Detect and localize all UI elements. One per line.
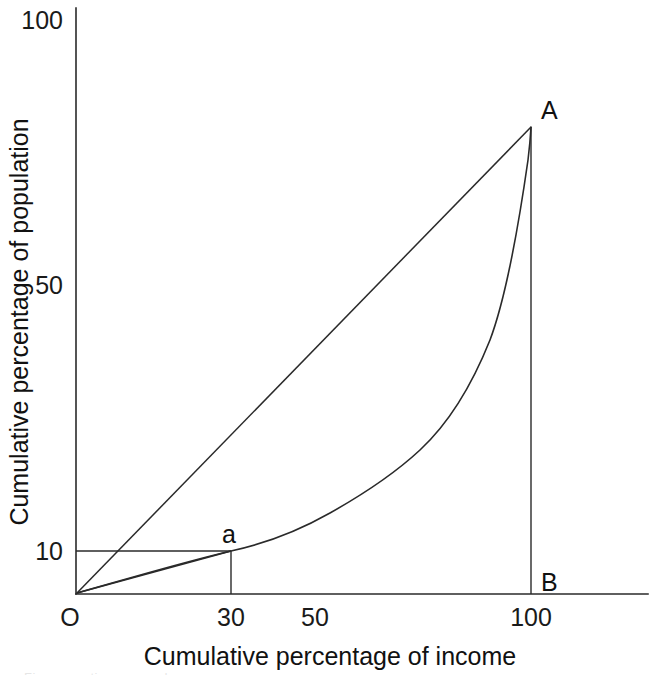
cropped-caption-artifact: Figure caption cropped: [24, 671, 324, 675]
y-tick-label-50: 50: [35, 271, 63, 299]
chart-canvas: 100 50 10 30 50 100 O A B a Cumulative p…: [0, 0, 654, 675]
point-label-B: B: [541, 568, 558, 596]
equality-line-OA: [77, 127, 531, 593]
y-axis-title: Cumulative percentage of population: [5, 118, 33, 525]
x-tick-label-30: 30: [217, 603, 245, 631]
x-axis-title: Cumulative percentage of income: [144, 642, 516, 670]
x-tick-label-50: 50: [301, 603, 329, 631]
x-tick-label-100: 100: [510, 603, 552, 631]
origin-label-O: O: [60, 603, 79, 631]
lorenz-curve-figure: 100 50 10 30 50 100 O A B a Cumulative p…: [0, 0, 654, 675]
y-tick-label-10: 10: [35, 537, 63, 565]
point-label-a: a: [222, 520, 236, 548]
y-tick-label-100: 100: [21, 6, 63, 34]
point-label-A: A: [541, 96, 558, 124]
